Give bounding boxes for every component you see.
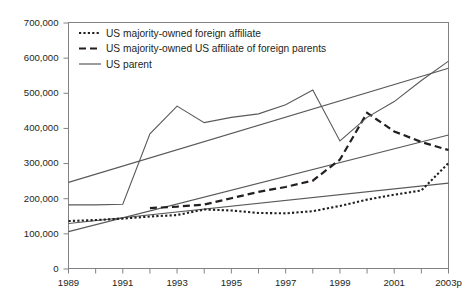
x-axis-ticks — [69, 269, 449, 274]
x-tick-label: 2003p — [435, 277, 462, 288]
x-tick-label: 2001 — [384, 277, 405, 288]
y-tick-label: 0 — [53, 263, 58, 274]
trend-line-lower-trend — [69, 183, 449, 223]
legend-label: US majority-owned foreign affiliate — [106, 28, 261, 39]
trend-lines — [69, 68, 449, 231]
x-tick-label: 1997 — [275, 277, 296, 288]
y-tick-label: 400,000 — [24, 122, 59, 133]
y-tick-label: 200,000 — [24, 193, 59, 204]
y-tick-label: 600,000 — [24, 52, 59, 63]
series-path-1 — [150, 113, 449, 208]
chart-container: 0100,000200,000300,000400,000500,000600,… — [0, 0, 466, 305]
x-tick-label: 1991 — [112, 277, 133, 288]
y-tick-label: 300,000 — [24, 157, 59, 168]
x-axis-tick-labels: 19891991199319951997199920012003p — [58, 277, 462, 288]
y-axis-ticks — [64, 23, 69, 269]
x-tick-label: 1999 — [329, 277, 350, 288]
chart-legend: US majority-owned foreign affiliateUS ma… — [79, 28, 326, 70]
trend-line-upper-trend — [69, 68, 449, 182]
y-tick-label: 500,000 — [24, 87, 59, 98]
x-tick-label: 1995 — [221, 277, 242, 288]
line-chart: 0100,000200,000300,000400,000500,000600,… — [0, 0, 466, 305]
y-tick-label: 100,000 — [24, 228, 59, 239]
legend-label: US parent — [106, 59, 152, 70]
legend-label: US majority-owned US affiliate of foreig… — [106, 43, 326, 54]
x-tick-label: 1989 — [58, 277, 79, 288]
y-tick-label: 700,000 — [24, 17, 59, 28]
y-axis-tick-labels: 0100,000200,000300,000400,000500,000600,… — [24, 17, 59, 274]
x-tick-label: 1993 — [166, 277, 187, 288]
